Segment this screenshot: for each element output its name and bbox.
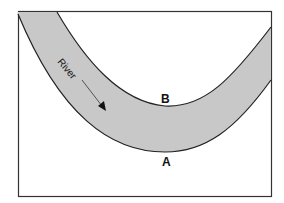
river-bend-diagram: River B A (0, 0, 284, 203)
point-b-label: B (161, 92, 170, 106)
point-a-label: A (162, 155, 171, 169)
